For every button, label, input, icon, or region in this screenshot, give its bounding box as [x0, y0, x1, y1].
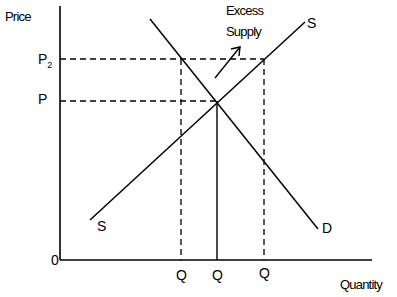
excess-label-line2: Supply: [226, 24, 261, 39]
supply-label-upper: S: [307, 15, 316, 31]
price-label-p: P: [38, 91, 47, 107]
p2-subscript: 2: [47, 60, 52, 70]
y-axis-label: Price: [5, 9, 31, 24]
quantity-label-equilibrium: Q: [212, 267, 223, 283]
p2-letter: P: [38, 51, 47, 67]
supply-label-lower: S: [97, 218, 106, 234]
price-label-p2: P2: [38, 51, 52, 67]
demand-label: D: [322, 220, 332, 236]
supply-curve: [90, 22, 305, 220]
arrow-icon: [215, 47, 240, 78]
x-axis-label: Quantity: [340, 277, 382, 292]
excess-label-line1: Excess: [226, 3, 263, 18]
demand-curve: [150, 19, 318, 229]
origin-label: 0: [51, 252, 59, 268]
quantity-label-supplied: Q: [259, 265, 270, 281]
quantity-label-demanded: Q: [176, 267, 187, 283]
supply-demand-chart: [0, 0, 397, 297]
